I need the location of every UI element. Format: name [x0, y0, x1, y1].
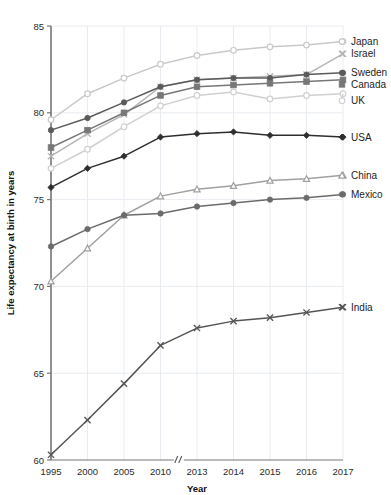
y-tick-label: 75 — [33, 194, 44, 205]
data-point-marker — [85, 226, 90, 231]
data-point-marker — [231, 82, 237, 88]
data-point-marker — [304, 93, 310, 99]
x-tick-label: 2017 — [332, 466, 353, 477]
data-point-marker — [194, 204, 199, 209]
data-point-marker — [231, 75, 236, 80]
data-point-marker — [158, 211, 163, 216]
data-point-marker — [194, 53, 200, 59]
data-point-marker — [339, 82, 345, 88]
data-point-marker — [267, 96, 273, 102]
x-axis-break-marker — [174, 456, 184, 463]
data-point-marker — [231, 200, 236, 205]
x-tick-label: 2000 — [77, 466, 98, 477]
data-point-marker — [267, 197, 272, 202]
y-tick-label: 65 — [33, 368, 44, 379]
line-chart-container: 6065707580851995200020052010201320142015… — [0, 0, 391, 495]
data-point-marker — [85, 146, 91, 152]
x-tick-label: 2013 — [186, 466, 207, 477]
data-point-marker — [48, 145, 54, 151]
legend-label-japan[interactable]: Japan — [351, 36, 378, 47]
data-point-marker — [339, 192, 344, 197]
data-point-marker — [194, 84, 200, 90]
data-point-marker — [339, 39, 345, 45]
legend-marker-uk — [339, 98, 345, 104]
data-point-marker — [304, 72, 309, 77]
y-tick-label: 60 — [33, 455, 44, 466]
y-tick-label: 70 — [33, 281, 44, 292]
life-expectancy-line-chart: 6065707580851995200020052010201320142015… — [0, 0, 391, 495]
x-axis-title: Year — [187, 483, 207, 494]
legend-label-uk[interactable]: UK — [351, 95, 365, 106]
y-tick-label: 80 — [33, 107, 44, 118]
y-tick-label: 85 — [33, 21, 44, 32]
legend-label-india[interactable]: India — [351, 302, 373, 313]
data-point-marker — [304, 79, 310, 85]
x-tick-label: 2016 — [296, 466, 317, 477]
data-point-marker — [194, 77, 199, 82]
data-point-marker — [121, 75, 127, 81]
legend-label-china[interactable]: China — [351, 170, 378, 181]
data-point-marker — [267, 80, 273, 86]
legend-label-mexico[interactable]: Mexico — [351, 189, 383, 200]
x-tick-label: 2014 — [223, 466, 244, 477]
y-axis-ticks: 606570758085 — [33, 21, 51, 466]
data-point-marker — [121, 100, 126, 105]
x-tick-label: 2010 — [150, 466, 171, 477]
legend-marker-sweden — [339, 70, 344, 75]
data-point-marker — [339, 98, 345, 104]
data-point-marker — [158, 84, 163, 89]
data-point-marker — [158, 103, 164, 109]
data-point-marker — [48, 166, 54, 172]
x-axis-ticks: 199520002005201020132014201520162017 — [40, 466, 353, 477]
legend-label-canada[interactable]: Canada — [351, 79, 386, 90]
data-point-marker — [231, 48, 237, 54]
data-point-marker — [158, 61, 164, 67]
legend-label-usa[interactable]: USA — [351, 132, 372, 143]
x-tick-label: 1995 — [40, 466, 61, 477]
legend-marker-japan — [339, 39, 345, 45]
x-tick-label: 2005 — [113, 466, 134, 477]
y-axis-title-group: Life expectancy at birth in years — [5, 171, 16, 316]
legend-marker-canada — [339, 82, 345, 88]
data-point-marker — [48, 117, 54, 123]
data-point-marker — [121, 110, 127, 116]
data-point-marker — [85, 127, 91, 133]
data-point-marker — [304, 195, 309, 200]
data-point-marker — [85, 115, 90, 120]
data-point-marker — [267, 44, 273, 50]
data-point-marker — [121, 124, 127, 130]
data-point-marker — [121, 213, 126, 218]
data-point-marker — [304, 42, 310, 48]
data-point-marker — [231, 89, 237, 95]
x-tick-label: 2015 — [259, 466, 280, 477]
data-point-marker — [194, 93, 200, 99]
data-point-marker — [85, 91, 91, 97]
legend-label-israel[interactable]: Israel — [351, 48, 375, 59]
data-point-marker — [158, 93, 164, 99]
data-point-marker — [48, 244, 53, 249]
data-point-marker — [48, 127, 53, 132]
data-point-marker — [339, 70, 344, 75]
legend-marker-mexico — [339, 192, 344, 197]
legend-label-sweden[interactable]: Sweden — [351, 67, 387, 78]
y-axis-title: Life expectancy at birth in years — [5, 171, 16, 316]
data-point-marker — [267, 75, 272, 80]
